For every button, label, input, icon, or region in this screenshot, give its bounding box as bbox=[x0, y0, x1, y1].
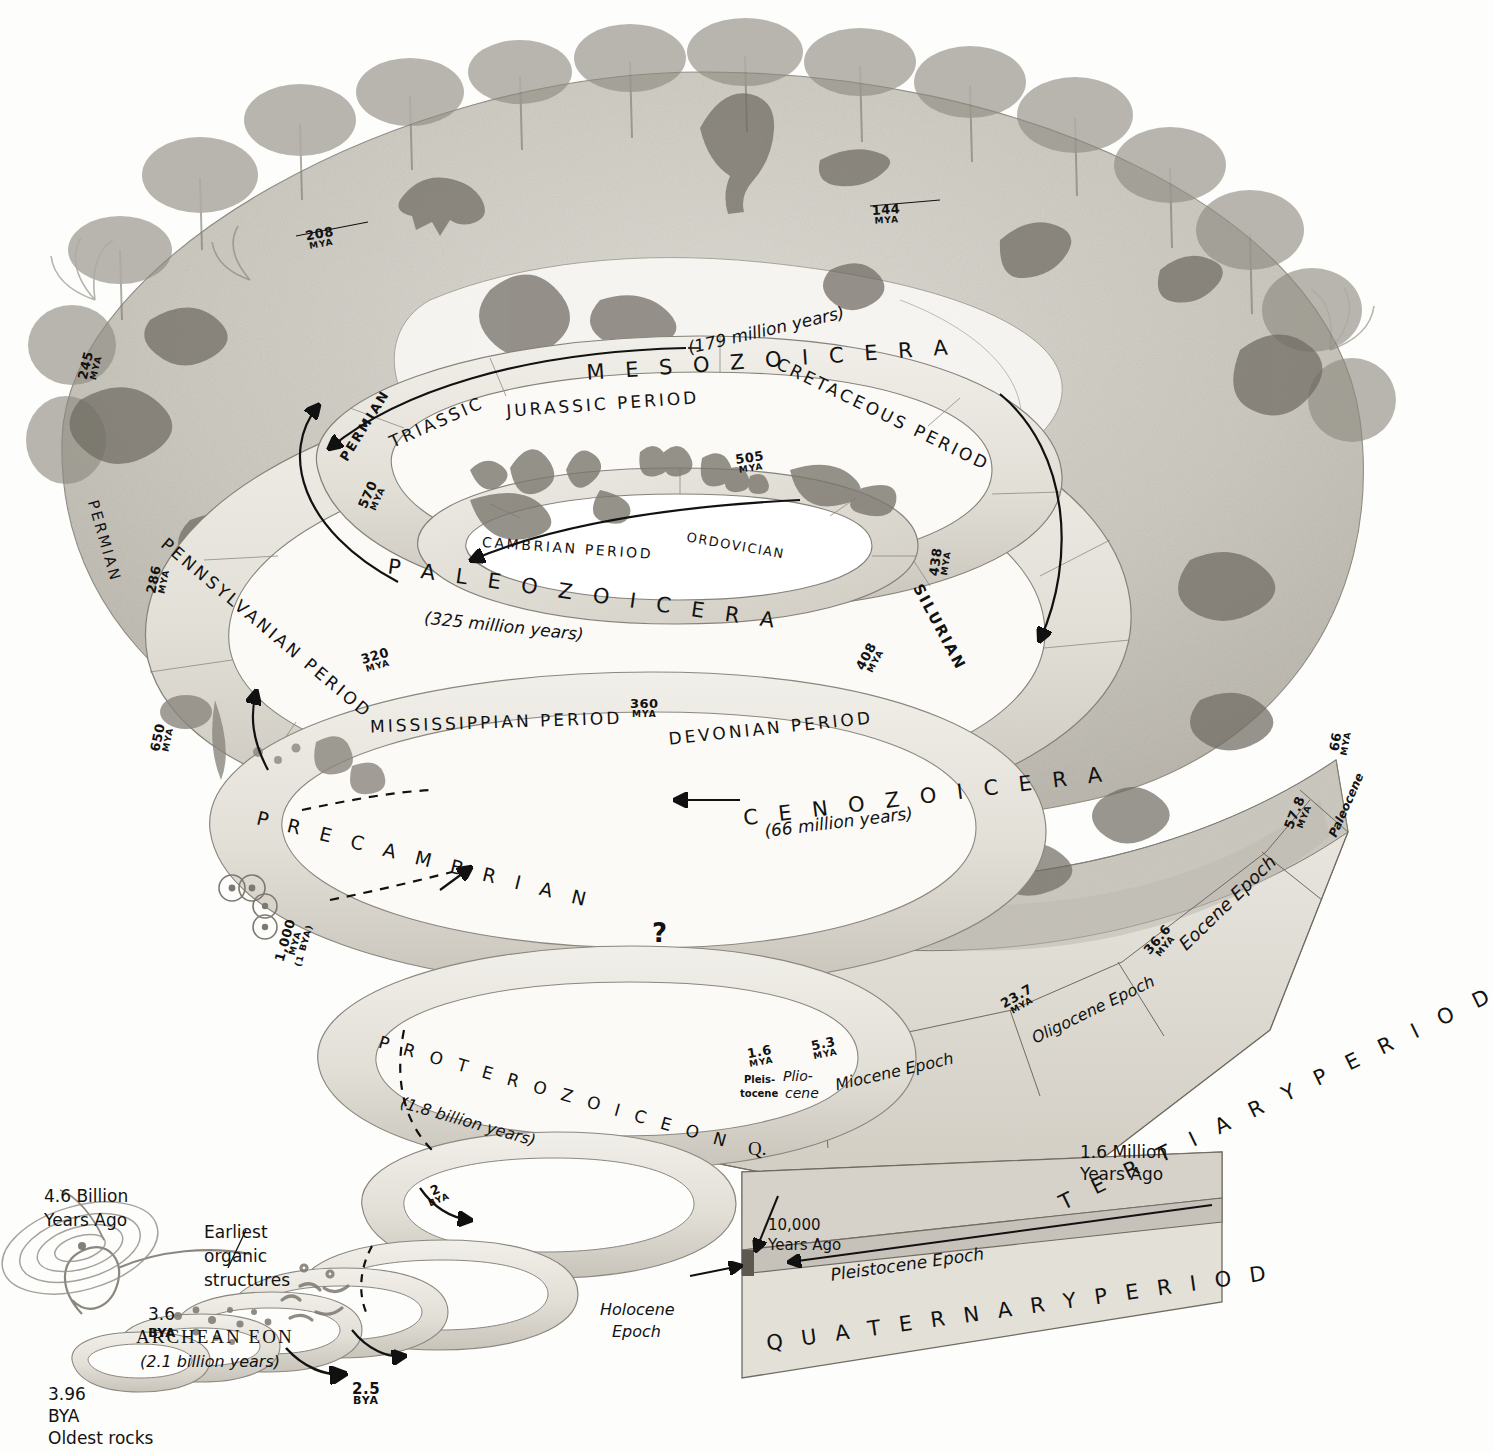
marker-360-unit: MYA bbox=[630, 710, 659, 719]
holocene-epoch-inset-label-line2: Epoch bbox=[612, 1322, 661, 1341]
oldest-rocks-age-line1: 3.96 bbox=[48, 1384, 86, 1405]
earth-age-label-line1: 4.6 Billion bbox=[44, 1186, 128, 1207]
pliocene-epoch-label-line1: Plio- bbox=[783, 1068, 813, 1084]
quaternary-start-label-line1: 1.6 Million bbox=[1080, 1142, 1167, 1163]
pleistocene-epoch-label-line1: Pleis- bbox=[744, 1074, 775, 1085]
marker-2-5-bya: 2.5 BYA bbox=[352, 1382, 380, 1407]
archean-duration-label: (2.1 billion years) bbox=[140, 1352, 280, 1371]
earth-age-label-line2: Years Ago bbox=[44, 1210, 127, 1231]
quaternary-abbrev-label: Q. bbox=[748, 1138, 766, 1160]
marker-438-mya: 438 MYA bbox=[928, 547, 953, 578]
marker-144-unit: MYA bbox=[872, 215, 901, 226]
marker-2-5-unit: BYA bbox=[352, 1396, 380, 1406]
marker-505-mya: 505 MYA bbox=[735, 450, 766, 475]
earliest-organic-label-line3: structures bbox=[204, 1270, 290, 1291]
earliest-organic-label-line1: Earliest bbox=[204, 1222, 268, 1243]
holocene-start-label-line1: 10,000 bbox=[768, 1216, 821, 1235]
pliocene-epoch-label-line2: cene bbox=[785, 1085, 819, 1101]
marker-66-mya: 66 MYA bbox=[1328, 729, 1353, 757]
marker-144-mya: 144 MYA bbox=[871, 203, 901, 226]
marker-360-mya: 360 MYA bbox=[630, 698, 659, 719]
organic-age-unit: BYA bbox=[148, 1326, 175, 1340]
oldest-rocks-label: Oldest rocks bbox=[48, 1428, 153, 1449]
holocene-epoch-inset-label-line1: Holocene bbox=[600, 1300, 675, 1319]
pleistocene-epoch-label-line2: tocene bbox=[740, 1088, 778, 1099]
unknown-question-mark: ? bbox=[652, 918, 667, 948]
marker-1-6-mya: 1.6 MYA bbox=[746, 1044, 774, 1069]
oldest-rocks-age-line2: BYA bbox=[48, 1406, 79, 1427]
holocene-start-label-line2: Years Ago bbox=[768, 1236, 841, 1255]
quaternary-start-label-line2: Years Ago bbox=[1080, 1164, 1163, 1185]
organic-age-marker: 3.6 bbox=[148, 1304, 175, 1325]
earliest-organic-label-line2: organic bbox=[204, 1246, 267, 1267]
